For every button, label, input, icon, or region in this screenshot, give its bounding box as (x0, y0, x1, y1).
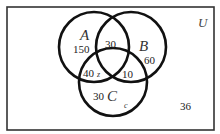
set-a-label: A (79, 27, 90, 43)
set-b-label: B (139, 38, 148, 54)
universe-label: U (198, 15, 209, 30)
region-b-and-c: 10 (122, 68, 134, 80)
region-c-only-variable: c (124, 101, 128, 110)
region-c-only: 30 (93, 90, 105, 102)
region-a-only: 150 (73, 43, 90, 55)
region-a-and-c: 40 (83, 67, 95, 79)
region-a-and-b: 30 (105, 38, 117, 50)
set-a-circle (59, 12, 129, 82)
region-outside: 36 (180, 100, 192, 112)
region-b-only: 60 (144, 54, 156, 66)
venn-diagram: U A B C 150 30 60 40 z 10 30 c 36 (0, 0, 220, 134)
set-c-label: C (107, 88, 118, 104)
region-a-and-c-variable: z (96, 70, 101, 79)
